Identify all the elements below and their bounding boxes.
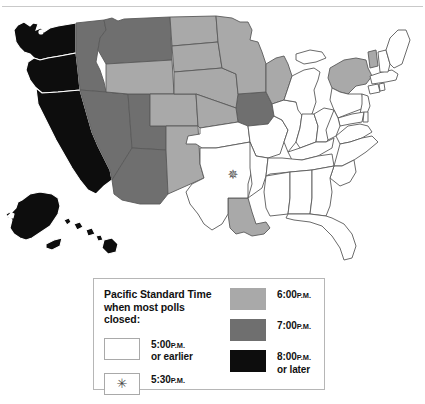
legend-swatch-530pm: ✳ [104, 373, 140, 395]
state-delaware[interactable] [363, 112, 368, 122]
map-legend: Pacific Standard Time when most polls cl… [93, 278, 325, 390]
legend-item-530pm[interactable]: ✳ 5:30P.M. [104, 373, 222, 395]
state-south-dakota[interactable] [172, 42, 222, 72]
state-wyoming[interactable] [106, 60, 174, 94]
state-colorado[interactable] [150, 94, 198, 126]
state-florida[interactable] [286, 214, 356, 260]
legend-swatch-8pm [230, 350, 266, 372]
legend-left-column: Pacific Standard Time when most polls cl… [104, 288, 222, 395]
legend-item-6pm[interactable]: 6:00P.M. [230, 288, 322, 310]
state-hawaii[interactable] [64, 218, 118, 254]
state-rhode-island[interactable] [379, 83, 385, 91]
legend-item-5pm[interactable]: 5:00P.M. or earlier [104, 338, 222, 363]
legend-label-7pm-time: 7:00 [277, 320, 297, 331]
legend-label-8pm-qualifier: or later [277, 364, 310, 375]
legend-swatch-7pm [230, 319, 266, 341]
state-vermont[interactable] [368, 50, 378, 68]
legend-label-8pm-time: 8:00 [277, 351, 297, 362]
legend-label-5pm: 5:00P.M. or earlier [151, 338, 193, 363]
legend-label-8pm-meridiem: P.M. [297, 353, 312, 362]
state-alabama[interactable] [288, 170, 312, 214]
us-map-svg: ✵ [0, 8, 425, 273]
legend-title-line1: Pacific Standard Time [104, 288, 222, 301]
state-alaska[interactable] [6, 192, 62, 250]
legend-label-530pm: 5:30P.M. [151, 373, 185, 387]
legend-item-8pm[interactable]: 8:00P.M. or later [230, 350, 322, 375]
legend-label-530pm-meridiem: P.M. [171, 376, 186, 385]
us-choropleth-map: ✵ [0, 8, 425, 273]
state-georgia[interactable] [310, 166, 334, 216]
legend-right-column: 6:00P.M. 7:00P.M. 8:00P.M. or later [230, 288, 322, 384]
state-north-dakota[interactable] [170, 16, 218, 46]
legend-label-6pm-meridiem: P.M. [297, 291, 312, 300]
top-rule-divider [2, 6, 423, 7]
legend-swatch-6pm [230, 288, 266, 310]
legend-label-5pm-meridiem: P.M. [171, 341, 186, 350]
state-mississippi[interactable] [264, 172, 290, 216]
legend-item-7pm[interactable]: 7:00P.M. [230, 319, 322, 341]
state-oregon[interactable] [26, 53, 80, 93]
legend-label-7pm: 7:00P.M. [277, 319, 311, 333]
state-louisiana[interactable] [228, 198, 270, 236]
state-new-york[interactable] [328, 58, 372, 94]
state-montana[interactable] [98, 17, 172, 64]
legend-swatch-5pm [104, 338, 140, 360]
figure-root: ✵ Pacific Standard Time when most polls … [0, 0, 425, 404]
state-connecticut[interactable] [368, 84, 380, 94]
legend-label-5pm-time: 5:00 [151, 339, 171, 350]
legend-label-7pm-meridiem: P.M. [297, 322, 312, 331]
arkansas-asterisk-marker: ✵ [228, 167, 239, 182]
legend-title-line2: when most polls closed: [104, 301, 222, 326]
legend-label-6pm-time: 6:00 [277, 289, 297, 300]
legend-label-6pm: 6:00P.M. [277, 288, 311, 302]
legend-label-5pm-qualifier: or earlier [151, 351, 193, 362]
state-maine[interactable] [386, 30, 410, 68]
puget-sound-detail [38, 29, 43, 34]
legend-label-530pm-time: 5:30 [151, 374, 171, 385]
asterisk-icon: ✳ [117, 377, 128, 390]
legend-title: Pacific Standard Time when most polls cl… [104, 288, 222, 326]
legend-label-8pm: 8:00P.M. or later [277, 350, 311, 375]
